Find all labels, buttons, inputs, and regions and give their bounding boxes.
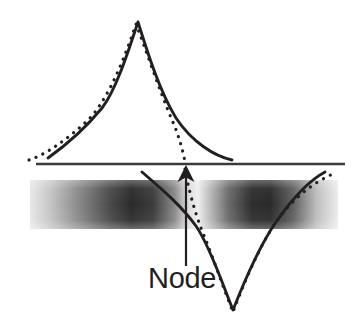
diagram-canvas: Node [0,0,358,326]
wavefunction-diagram: Node [0,0,358,326]
upper-lobe-solid-curve [48,22,232,160]
electron-density-band [30,180,338,229]
node-label: Node [148,262,216,294]
